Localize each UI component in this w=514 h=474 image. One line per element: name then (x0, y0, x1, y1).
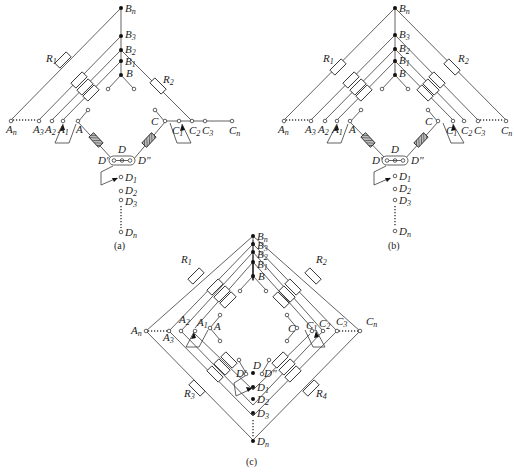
svg-text:C2: C2 (319, 317, 330, 331)
panel-a: Bn B3 B2 B1 B R1 R2 An A3 A2 A1 A C C1 C… (5, 2, 240, 252)
svg-text:D: D (390, 143, 399, 155)
caption-c: (c) (246, 456, 257, 468)
svg-text:C3: C3 (474, 124, 485, 138)
svg-text:Cn: Cn (501, 124, 512, 138)
svg-text:C: C (425, 115, 433, 127)
svg-text:D': D' (371, 154, 383, 166)
svg-text:R1: R1 (322, 52, 334, 66)
label-d-double-prime: D" (137, 154, 151, 166)
svg-text:Dn: Dn (398, 225, 411, 239)
svg-text:R2: R2 (315, 253, 327, 267)
svg-text:C3: C3 (336, 315, 347, 329)
label-r2: R2 (162, 73, 174, 87)
svg-text:An: An (130, 324, 142, 338)
svg-text:R2: R2 (457, 52, 469, 66)
transition-impedance-right (142, 133, 156, 148)
svg-text:A1: A1 (331, 123, 343, 137)
label-b3: B3 (125, 28, 136, 42)
svg-text:A2: A2 (178, 313, 190, 327)
label-d: D (117, 143, 126, 155)
caption-a: (a) (114, 240, 125, 252)
svg-text:D2: D2 (256, 393, 269, 407)
label-b: B (126, 67, 133, 79)
label-d-prime: D' (97, 154, 109, 166)
caption-b: (b) (388, 240, 400, 252)
svg-text:B: B (399, 67, 406, 79)
svg-text:D3: D3 (256, 407, 269, 421)
svg-text:C2: C2 (461, 124, 472, 138)
svg-text:D': D' (235, 367, 247, 379)
resistor-r1 (55, 52, 71, 68)
svg-text:A3: A3 (162, 331, 174, 345)
svg-text:An: An (277, 123, 289, 137)
tap-changer-circuit-diagram: Bn B3 B2 B1 B R1 R2 An A3 A2 A1 A C C1 C… (0, 0, 514, 474)
svg-text:D": D" (410, 154, 424, 166)
svg-text:A1: A1 (196, 316, 208, 330)
svg-text:B1: B1 (399, 54, 410, 68)
label-an: An (5, 123, 17, 137)
label-a2: A2 (44, 123, 56, 137)
label-r1: R1 (45, 52, 57, 66)
svg-text:A: A (213, 320, 221, 332)
svg-text:C: C (288, 322, 296, 334)
svg-text:B: B (258, 270, 265, 282)
svg-text:Cn: Cn (366, 315, 377, 329)
svg-text:A3: A3 (304, 123, 316, 137)
svg-text:B3: B3 (399, 28, 410, 42)
panel-b: Bn B3 B2 B1 B R1 R2 An A3 A2 A1 A C C1 C… (277, 2, 512, 252)
label-d1: D1 (124, 171, 137, 185)
svg-text:C1: C1 (446, 124, 457, 138)
svg-text:R4: R4 (315, 387, 327, 401)
panel-c: Bn B3 B2 B1 B R1 R2 R3 R4 An A3 A2 A1 A … (130, 230, 377, 468)
label-a: A (75, 123, 83, 135)
label-cn: Cn (229, 124, 240, 138)
label-bn: Bn (125, 2, 136, 16)
label-a3: A3 (32, 123, 44, 137)
svg-text:Bn: Bn (399, 2, 410, 16)
label-c2: C2 (189, 124, 200, 138)
svg-text:R1: R1 (180, 253, 192, 267)
label-c3: C3 (202, 124, 213, 138)
svg-text:C1: C1 (306, 319, 317, 333)
label-a1: A1 (57, 123, 69, 137)
svg-text:Dn: Dn (256, 435, 269, 449)
svg-text:D: D (252, 359, 261, 371)
label-dn: Dn (124, 226, 137, 240)
svg-text:A: A (348, 123, 356, 135)
svg-text:D": D" (263, 367, 277, 379)
svg-text:A2: A2 (317, 123, 329, 137)
transition-impedance-left (89, 133, 103, 148)
label-c: C (151, 115, 159, 127)
svg-text:D3: D3 (398, 194, 411, 208)
